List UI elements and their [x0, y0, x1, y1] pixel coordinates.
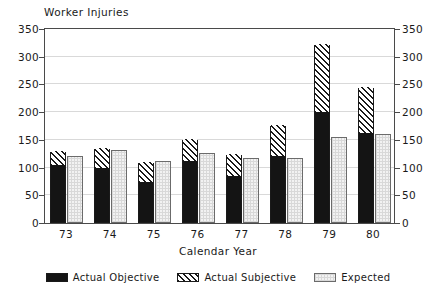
legend-label: Actual Objective	[73, 272, 160, 283]
bar-segment-actual-objective	[95, 168, 109, 222]
x-tick-label: 73	[46, 229, 86, 240]
bar-segment-actual-objective	[271, 156, 285, 223]
x-axis-label: Calendar Year	[0, 245, 436, 257]
bar-segment-actual-objective	[315, 112, 329, 222]
plot-area	[44, 28, 395, 224]
y-tick-mark	[39, 195, 44, 196]
y-tick-label: 200	[0, 107, 39, 118]
x-tick-label: 75	[134, 229, 174, 240]
bar-actual	[94, 149, 110, 223]
y-tick-label: 0	[0, 218, 39, 229]
bar-expected	[243, 158, 259, 223]
y-tick-mark	[39, 29, 44, 30]
bar-segment-actual-subjective	[315, 44, 329, 113]
bar-actual	[138, 163, 154, 223]
x-tick-label: 80	[353, 229, 393, 240]
bar-actual	[270, 126, 286, 223]
legend-label: Expected	[341, 272, 390, 283]
bar-segment-actual-subjective	[227, 154, 241, 176]
legend-swatch-expected	[314, 273, 336, 282]
bar-expected	[331, 137, 347, 223]
y-tick-mark	[395, 223, 400, 224]
bar-segment-actual-subjective	[139, 162, 153, 182]
gridline	[45, 111, 394, 112]
bar-actual	[314, 45, 330, 223]
legend-entry: Expected	[314, 272, 390, 283]
x-tick-label: 77	[221, 229, 261, 240]
y-tick-mark	[395, 140, 400, 141]
gridline	[45, 56, 394, 57]
legend-entry: Actual Subjective	[177, 272, 296, 283]
y-tick-label: 150	[0, 135, 39, 146]
y-tick-mark	[39, 168, 44, 169]
x-tick-label: 76	[178, 229, 218, 240]
y-tick-label: 350	[402, 24, 436, 35]
y-tick-label: 200	[402, 107, 436, 118]
bar-segment-actual-objective	[183, 161, 197, 222]
y-tick-mark	[39, 57, 44, 58]
chart-title: Worker Injuries	[44, 6, 129, 18]
y-tick-label: 100	[0, 163, 39, 174]
bar-segment-actual-subjective	[359, 87, 373, 134]
y-tick-mark	[395, 84, 400, 85]
bar-actual	[182, 140, 198, 223]
bar-actual	[358, 88, 374, 223]
y-tick-label: 50	[0, 190, 39, 201]
legend-entry: Actual Objective	[46, 272, 160, 283]
y-tick-mark	[395, 195, 400, 196]
x-tick-label: 78	[265, 229, 305, 240]
legend-label: Actual Subjective	[204, 272, 296, 283]
bar-actual	[50, 152, 66, 223]
bar-segment-actual-objective	[51, 165, 65, 222]
y-tick-label: 300	[402, 52, 436, 63]
y-tick-mark	[395, 112, 400, 113]
y-tick-label: 250	[402, 79, 436, 90]
y-tick-mark	[39, 112, 44, 113]
y-tick-label: 0	[402, 218, 436, 229]
bar-segment-actual-subjective	[271, 125, 285, 155]
bar-actual	[226, 155, 242, 223]
y-tick-mark	[395, 57, 400, 58]
gridline	[45, 83, 394, 84]
y-tick-label: 50	[402, 190, 436, 201]
chart-legend: Actual ObjectiveActual SubjectiveExpecte…	[0, 272, 436, 283]
y-tick-mark	[39, 140, 44, 141]
bar-expected	[287, 158, 303, 223]
y-tick-mark	[395, 29, 400, 30]
y-tick-label: 100	[402, 163, 436, 174]
bar-expected	[375, 134, 391, 223]
y-tick-label: 150	[402, 135, 436, 146]
bar-segment-actual-subjective	[183, 139, 197, 161]
bar-expected	[199, 153, 215, 223]
bar-expected	[155, 161, 171, 223]
bar-segment-actual-objective	[227, 176, 241, 222]
y-tick-label: 250	[0, 79, 39, 90]
y-tick-mark	[39, 84, 44, 85]
y-tick-mark	[395, 168, 400, 169]
bar-segment-actual-subjective	[51, 151, 65, 165]
x-tick-label: 74	[90, 229, 130, 240]
y-tick-mark	[39, 223, 44, 224]
y-tick-label: 300	[0, 52, 39, 63]
bar-segment-actual-objective	[139, 182, 153, 222]
x-tick-label: 79	[309, 229, 349, 240]
bar-expected	[67, 156, 83, 223]
bar-segment-actual-objective	[359, 133, 373, 222]
worker-injuries-chart: Worker Injuries 050100150200250300350 05…	[0, 0, 436, 303]
legend-swatch-actual-subjective	[177, 273, 199, 282]
bar-expected	[111, 150, 127, 223]
legend-swatch-actual-objective	[46, 273, 68, 282]
bar-segment-actual-subjective	[95, 148, 109, 168]
y-tick-label: 350	[0, 24, 39, 35]
